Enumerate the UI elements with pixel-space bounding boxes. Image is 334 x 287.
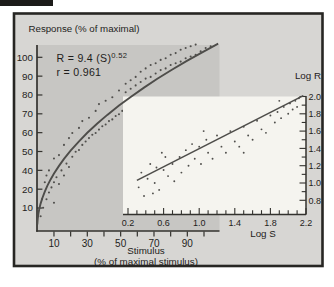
main-scatter-point	[160, 69, 162, 71]
main-scatter-point	[58, 154, 60, 156]
inset-scatter-point	[149, 163, 151, 165]
main-scatter-point	[45, 198, 47, 200]
main-scatter-point	[81, 144, 83, 146]
main-scatter-point	[81, 120, 83, 122]
main-x-tick-label: 10	[48, 238, 60, 249]
inset-scatter-point	[265, 132, 267, 134]
inset-scatter-point	[200, 163, 202, 165]
stimulus-response-figure: Response (% of maximal) 0.20.61.01.41.82…	[0, 0, 334, 287]
main-y-tick-label: 70	[22, 108, 33, 119]
main-scatter-point	[115, 115, 117, 117]
main-y-tick-label: 90	[22, 71, 33, 82]
main-scatter-point	[150, 76, 152, 78]
main-scatter-point	[98, 129, 100, 131]
inset-scatter-point	[147, 178, 149, 180]
main-y-tick-label: 100	[17, 52, 34, 63]
main-scatter-point	[170, 54, 172, 56]
main-scatter-point	[175, 62, 177, 64]
inset-scatter-point	[261, 128, 263, 130]
inset-scatter-point	[198, 146, 200, 148]
inset-scatter-point	[277, 111, 279, 113]
main-y-tick-label: 20	[22, 184, 33, 195]
inset-scatter-point	[247, 134, 249, 136]
main-scatter-point	[170, 64, 172, 66]
inset-x-tick-label: 1.8	[264, 218, 277, 228]
inset-y-tick-label: 0.8	[309, 196, 322, 206]
main-scatter-point	[108, 120, 110, 122]
main-scatter-point	[165, 67, 167, 69]
inset-scatter-point	[203, 130, 205, 132]
main-scatter-point	[118, 113, 120, 115]
inset-scatter-point	[173, 180, 175, 182]
inset-y-tick-label: 1.6	[309, 126, 322, 136]
main-scatter-point	[140, 81, 142, 83]
inset-scatter-point	[234, 141, 236, 143]
inset-scatter-point	[156, 166, 158, 168]
main-x-tick-label: 30	[82, 238, 94, 249]
inset-scatter-point	[278, 100, 280, 102]
main-y-tick-label: 10	[22, 202, 33, 213]
inset-scatter-point	[292, 109, 294, 111]
main-scatter-point	[180, 49, 182, 51]
main-scatter-point	[118, 89, 120, 91]
inset-y-axis-title: Log R	[295, 70, 321, 81]
main-scatter-point	[88, 117, 90, 119]
main-scatter-point	[125, 91, 127, 93]
main-scatter-point	[125, 83, 127, 85]
main-scatter-point	[145, 78, 147, 80]
main-scatter-point	[48, 169, 50, 171]
inset-scatter-point	[164, 156, 166, 158]
inset-scatter-point	[212, 158, 214, 160]
main-scatter-point	[53, 181, 55, 183]
main-scatter-point	[63, 174, 65, 176]
main-y-tick-label: 80	[22, 89, 33, 100]
inset-y-tick-label: 1.8	[309, 109, 322, 119]
inset-y-tick-label: 1.0	[309, 178, 322, 188]
main-scatter-point	[150, 64, 152, 66]
main-scatter-point	[185, 57, 187, 59]
main-scatter-point	[135, 76, 137, 78]
inset-scatter-point	[194, 158, 196, 160]
main-scatter-point	[160, 59, 162, 61]
main-y-axis-title: Response (% of maximal)	[29, 23, 140, 34]
main-scatter-point	[111, 96, 113, 98]
main-scatter-point	[53, 202, 55, 204]
equation-base: R = 9.4 (S)	[57, 52, 112, 64]
main-scatter-point	[88, 137, 90, 139]
main-scatter-point	[145, 67, 147, 69]
main-y-tick-label: 60	[22, 127, 33, 138]
inset-scatter-point	[188, 165, 190, 167]
inset-scatter-point	[280, 117, 282, 119]
main-y-tick-label: 50	[22, 146, 33, 157]
main-scatter-point	[65, 163, 67, 165]
inset-scatter-point	[274, 122, 276, 124]
main-scatter-point	[175, 52, 177, 54]
inset-scatter-point	[191, 143, 193, 145]
main-scatter-point	[44, 181, 46, 183]
inset-y-tick-label: 2.0	[309, 92, 322, 102]
main-scatter-point	[68, 166, 70, 168]
equation-exponent: 0.52	[111, 51, 127, 60]
inset-y-tick-label: 1.4	[309, 144, 322, 154]
inset-scatter-point	[216, 134, 218, 136]
inset-scatter-point	[161, 152, 163, 154]
main-x-axis-title: Stimulus	[127, 245, 165, 256]
main-scatter-point	[140, 71, 142, 73]
inset-scatter-point	[243, 152, 245, 154]
main-x-tick-label: 90	[182, 238, 194, 249]
main-scatter-point	[71, 156, 73, 158]
main-scatter-point	[78, 127, 80, 129]
inset-scatter-point	[143, 195, 145, 197]
inset-x-tick-label: 0.2	[122, 218, 135, 228]
main-scatter-point	[165, 57, 167, 59]
inset-x-tick-label: 1.0	[193, 218, 206, 228]
inset-x-axis-title: Log S	[250, 228, 276, 239]
inset-scatter-point	[140, 172, 142, 174]
inset-scatter-point	[138, 186, 140, 188]
main-scatter-point	[75, 151, 77, 153]
inset-scatter-point	[252, 139, 254, 141]
main-scatter-point	[195, 44, 197, 46]
main-scatter-point	[130, 88, 132, 90]
main-scatter-point	[48, 191, 50, 193]
main-scatter-point	[190, 45, 192, 47]
